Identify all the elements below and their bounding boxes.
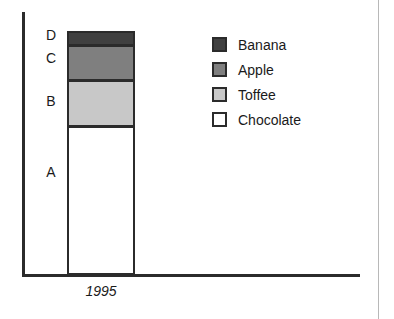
segment-label-a: A bbox=[41, 165, 61, 179]
x-axis-tick-label-1995: 1995 bbox=[67, 283, 135, 299]
legend-label-banana: Banana bbox=[238, 37, 286, 53]
segment-label-d: D bbox=[41, 28, 61, 42]
segment-label-b: B bbox=[41, 94, 61, 108]
legend-swatch-banana-icon bbox=[212, 37, 227, 52]
legend-swatch-apple-icon bbox=[212, 62, 227, 77]
legend-swatch-toffee-icon bbox=[212, 87, 227, 102]
legend-item-banana[interactable]: Banana bbox=[212, 32, 301, 57]
bar-segment-chocolate[interactable] bbox=[67, 126, 135, 275]
bar-segment-banana[interactable] bbox=[67, 31, 135, 46]
y-axis-line bbox=[22, 12, 25, 277]
stacked-bar-1995[interactable] bbox=[67, 31, 135, 275]
legend-label-chocolate: Chocolate bbox=[238, 112, 301, 128]
legend-label-toffee: Toffee bbox=[238, 87, 276, 103]
legend-label-apple: Apple bbox=[238, 62, 274, 78]
legend-item-chocolate[interactable]: Chocolate bbox=[212, 107, 301, 132]
legend-item-toffee[interactable]: Toffee bbox=[212, 82, 301, 107]
segment-label-c: C bbox=[41, 51, 61, 65]
chart-legend: Banana Apple Toffee Chocolate bbox=[212, 32, 301, 132]
chart-canvas: D C B A 1995 Banana Apple Toffee Chocola… bbox=[0, 0, 394, 319]
legend-item-apple[interactable]: Apple bbox=[212, 57, 301, 82]
legend-swatch-chocolate-icon bbox=[212, 112, 227, 127]
bar-segment-toffee[interactable] bbox=[67, 80, 135, 127]
page-border-right bbox=[378, 0, 379, 319]
bar-segment-apple[interactable] bbox=[67, 45, 135, 81]
